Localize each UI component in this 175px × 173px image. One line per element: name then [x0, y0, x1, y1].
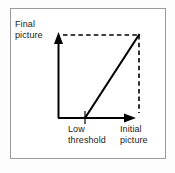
diagram-screenshot: Final picture Low threshold Initial pict…: [0, 0, 175, 173]
transfer-function-line: [85, 34, 140, 118]
x-axis-label: Initial picture: [120, 124, 148, 146]
x-tick-label-low-threshold: Low threshold: [68, 124, 106, 146]
x-axis-arrowhead: [124, 114, 136, 123]
y-axis-arrowhead: [54, 32, 63, 44]
y-axis-label: Final picture: [15, 19, 43, 41]
